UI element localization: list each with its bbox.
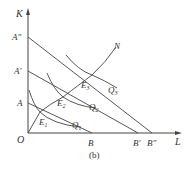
point-E1-label: E1 [38, 117, 48, 128]
diagram-svg: K L O A A′ A″ B B′ B″ E1 E2 E3 Q1 Q2 Q3 … [0, 0, 190, 170]
expansion-path-label: N [113, 41, 121, 51]
isoquant-Q3 [66, 55, 117, 88]
isoquant-Q2-label: Q2 [89, 102, 99, 113]
point-B1-label: B′ [133, 138, 141, 148]
isoquant-Q1-label: Q1 [72, 120, 82, 131]
l-axis-arrow-icon [175, 131, 182, 135]
figure-caption: (b) [89, 150, 100, 160]
isoquant-Q3-label: Q3 [108, 85, 118, 96]
point-B2-label: B″ [147, 138, 156, 148]
point-A1-label: A′ [13, 66, 22, 76]
point-E2-label: E2 [56, 98, 66, 109]
point-A-label: A [16, 98, 23, 108]
origin-label: O [17, 134, 24, 145]
l-axis-label: L [174, 136, 181, 147]
isocost-line-A2B2 [28, 37, 152, 133]
k-axis-arrow-icon [26, 8, 30, 15]
point-B-label: B [88, 138, 94, 148]
point-A2-label: A″ [11, 32, 21, 42]
expansion-path-diagram: K L O A A′ A″ B B′ B″ E1 E2 E3 Q1 Q2 Q3 … [0, 0, 190, 170]
point-E3-label: E3 [80, 80, 90, 91]
k-axis-label: K [15, 8, 24, 19]
